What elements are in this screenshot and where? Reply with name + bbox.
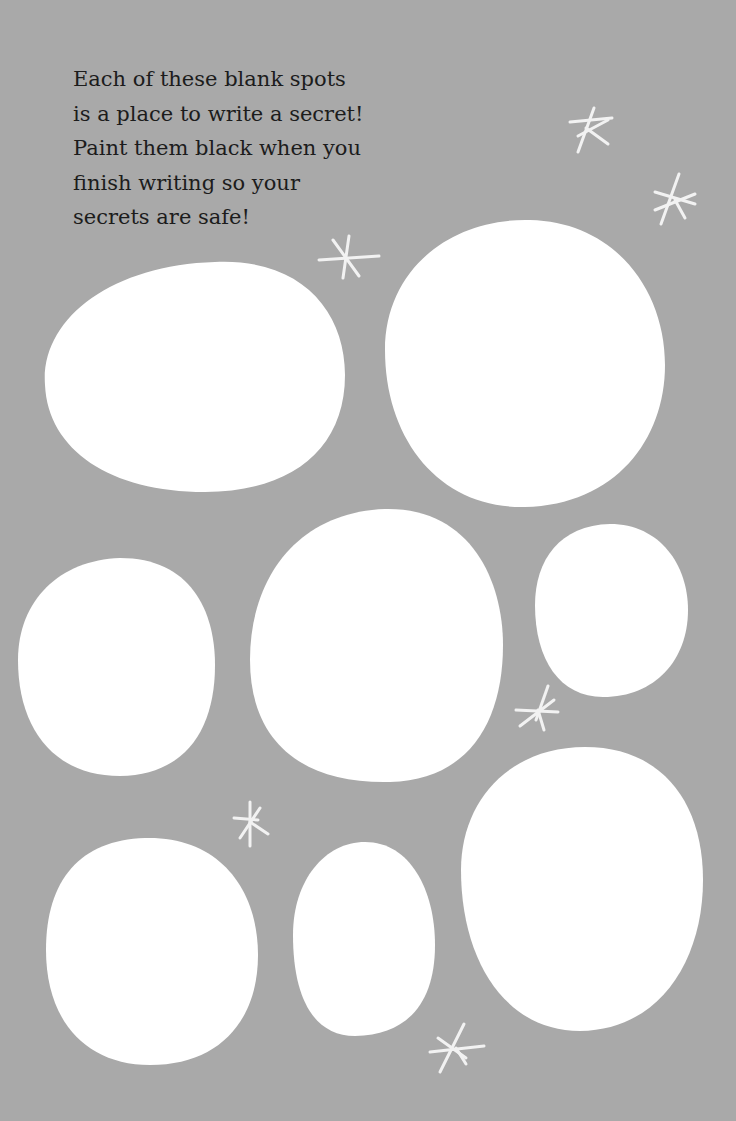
secret-spot-1[interactable] [45,262,345,492]
secret-spots-canvas [0,0,736,1121]
secret-spot-4[interactable] [250,509,503,782]
sparkle-icon [234,802,268,846]
sparkle-icon [570,108,612,152]
secret-spot-6[interactable] [46,838,258,1065]
sparkle-icon [516,686,558,730]
secret-spot-2[interactable] [385,220,665,507]
secret-spot-5[interactable] [535,524,688,697]
secret-spot-7[interactable] [293,842,435,1036]
sparkle-icon [319,236,379,278]
secret-spot-8[interactable] [461,747,703,1031]
sparkle-icon [655,174,695,224]
sparkle-icon [430,1024,484,1072]
secret-spot-3[interactable] [18,558,215,776]
